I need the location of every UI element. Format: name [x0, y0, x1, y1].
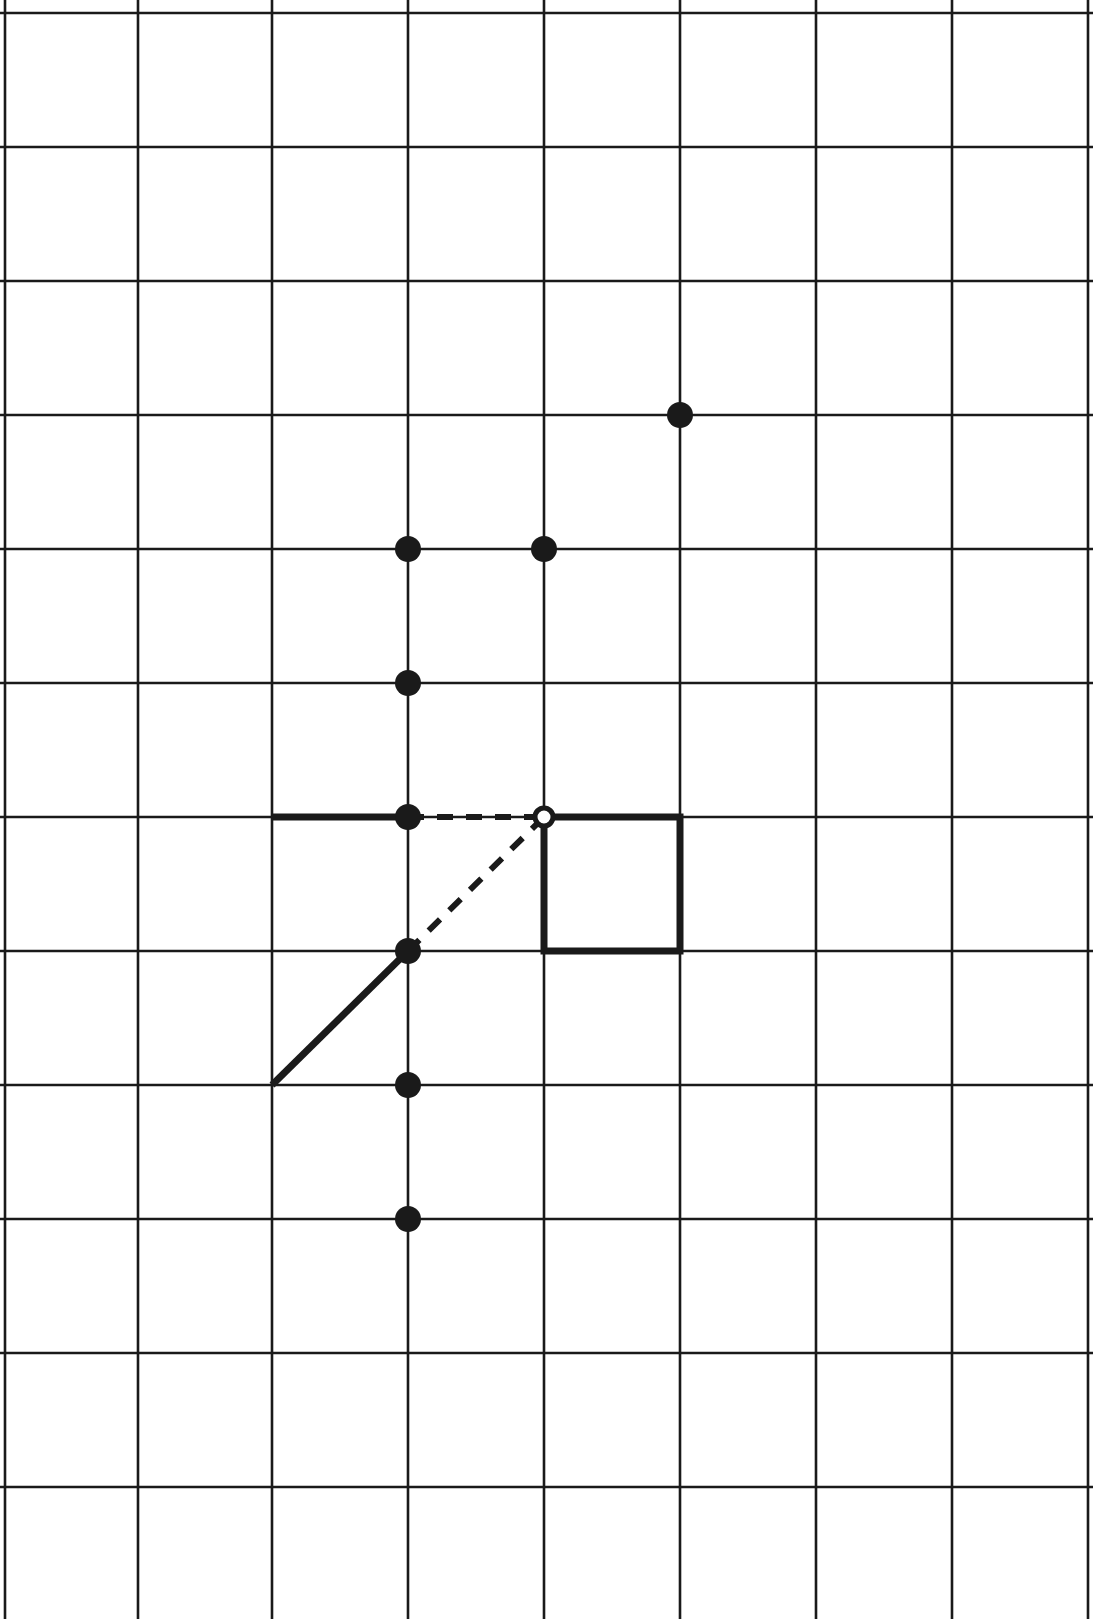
filled-lattice-point-point-g: [395, 1072, 421, 1098]
lattice-figure: [0, 0, 1093, 1619]
figure-canvas: [0, 0, 1093, 1619]
filled-lattice-point-point-b: [395, 536, 421, 562]
filled-lattice-point-point-h: [395, 1206, 421, 1232]
filled-lattice-point-point-c: [531, 536, 557, 562]
open-lattice-point-point-vertex: [535, 808, 553, 826]
filled-lattice-point-point-d: [395, 670, 421, 696]
filled-lattice-point-point-a: [667, 402, 693, 428]
filled-lattice-point-point-f: [395, 938, 421, 964]
filled-lattice-point-point-e: [395, 804, 421, 830]
